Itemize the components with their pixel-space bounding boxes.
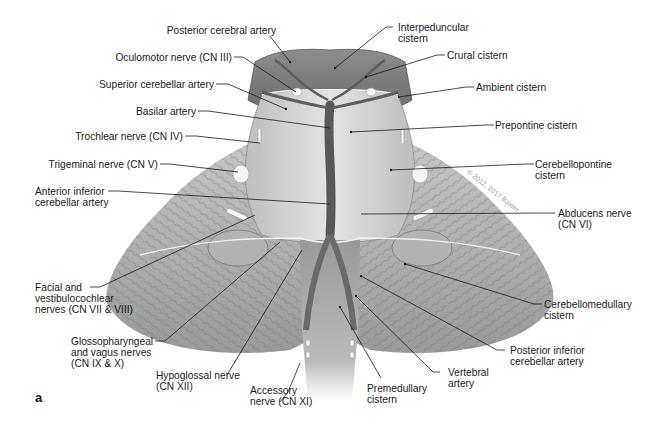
label-facial-vestibulocochlear-nerves: Facial and vestibulocochlear nerves (CN … [35,282,133,315]
label-oculomotor-nerve: Oculomotor nerve (CN III) [98,52,232,63]
label-vertebral-artery: Vertebral artery [448,367,489,389]
anatomy-figure: © 2012, 2017 Baxter Posterior cerebral a… [0,0,660,428]
label-trigeminal-nerve: Trigeminal nerve (CN V) [36,159,158,170]
label-abducens-nerve: Abducens nerve (CN VI) [558,208,632,230]
flocculus-right [392,230,452,266]
basilar-artery-vessel [329,105,331,235]
label-posterior-inferior-cerebellar-artery: Posterior inferior cerebellar artery [510,345,585,367]
label-interpeduncular-cistern: Interpeduncular cistern [398,22,469,44]
label-basilar-artery: Basilar artery [110,106,196,117]
label-anterior-inferior-cerebellar-artery: Anterior inferior cerebellar artery [35,186,109,208]
label-accessory-nerve: Accessory nerve (CN XI) [250,385,312,407]
label-glossopharyngeal-vagus-nerves: Glossopharyngeal and vagus nerves (CN IX… [71,336,153,369]
label-prepontine-cistern: Prepontine cistern [495,120,577,131]
label-posterior-cerebral-artery: Posterior cerebral artery [150,25,276,36]
label-crural-cistern: Crural cistern [447,50,508,61]
label-superior-cerebellar-artery: Superior cerebellar artery [80,79,214,90]
label-premedullary-cistern: Premedullary cistern [367,383,427,405]
label-cerebellopontine-cistern: Cerebellopontine cistern [535,159,612,181]
label-trochlear-nerve: Trochlear nerve (CN IV) [60,131,183,142]
label-ambient-cistern: Ambient cistern [476,82,546,93]
label-hypoglossal-nerve: Hypoglossal nerve (CN XII) [156,370,240,392]
panel-letter: a [35,390,42,405]
label-cerebellomedullary-cistern: Cerebellomedullary cistern [544,299,632,321]
